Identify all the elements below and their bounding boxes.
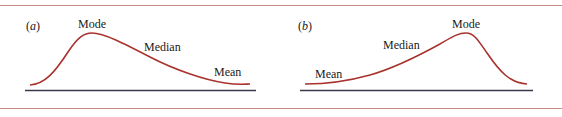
panel-a-mean-label: Mean (214, 66, 241, 78)
panel-b-label: (b) (298, 20, 312, 32)
panel-a-median-label: Median (144, 41, 181, 53)
panel-b-mode-label: Mode (452, 18, 480, 30)
panel-a-mode-label: Mode (78, 18, 106, 30)
panel-b-median-label: Median (383, 39, 420, 51)
panel-a-graphic (25, 33, 256, 91)
panel-b-mean-label: Mean (315, 68, 342, 80)
panel-a-label: (a) (26, 20, 40, 32)
